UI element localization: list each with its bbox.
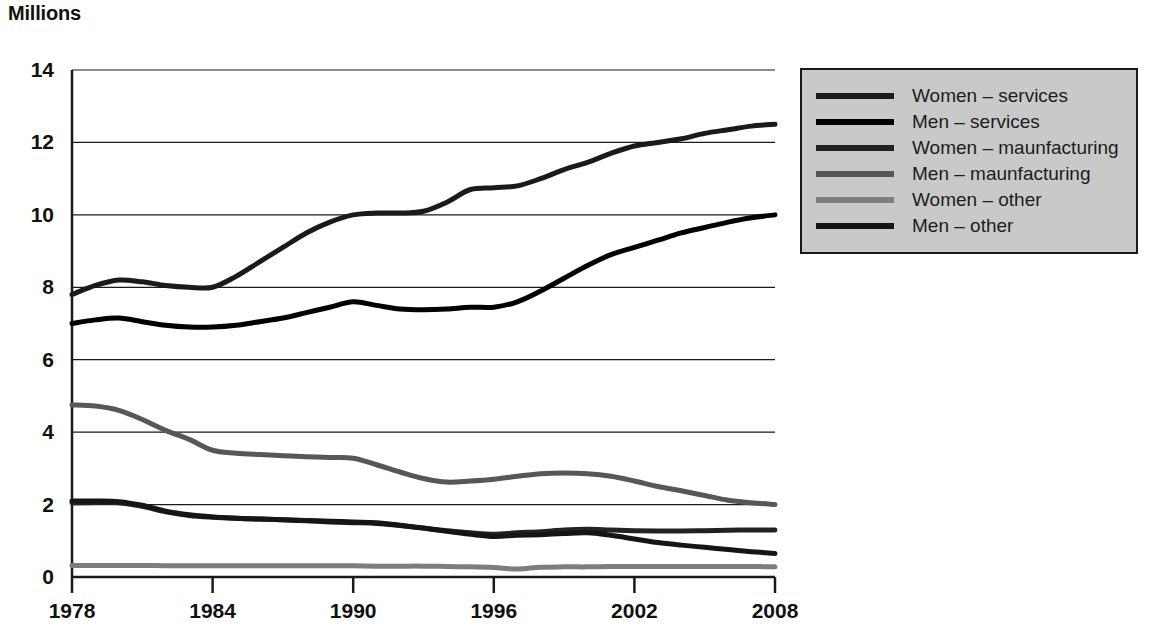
legend-swatch [816, 171, 894, 177]
y-axis-tick-label: 8 [8, 275, 54, 299]
legend-item-label: Women – other [912, 189, 1042, 211]
legend-swatch [816, 119, 894, 125]
gridlines [72, 70, 775, 577]
x-axis-tick-label: 1978 [27, 599, 117, 623]
y-axis-tick-label: 12 [8, 130, 54, 154]
legend-item-label: Men – maunfacturing [912, 163, 1091, 185]
legend-item-label: Men – other [912, 215, 1013, 237]
line-chart: 02468101214 197819841990199620022008 [0, 0, 800, 628]
y-axis-tick-label: 10 [8, 203, 54, 227]
series-lines [72, 124, 775, 569]
plot-svg [0, 0, 800, 628]
x-axis-tick-label: 1990 [308, 599, 398, 623]
x-axis-tick-label: 2008 [730, 599, 820, 623]
legend-item-label: Women – services [912, 85, 1068, 107]
legend-swatch [816, 197, 894, 203]
series-line [72, 501, 775, 554]
y-axis-tick-label: 6 [8, 348, 54, 372]
y-axis-tick-label: 0 [8, 565, 54, 589]
y-axis-tick-label: 4 [8, 420, 54, 444]
legend-swatch [816, 145, 894, 151]
legend-swatch [816, 223, 894, 229]
legend-item-label: Men – services [912, 111, 1040, 133]
legend-swatch [816, 93, 894, 99]
legend-item[interactable]: Men – services [802, 109, 1136, 135]
chart-legend: Women – servicesMen – servicesWomen – ma… [800, 68, 1138, 254]
x-axis-tick-label: 1996 [449, 599, 539, 623]
legend-item[interactable]: Women – other [802, 187, 1136, 213]
y-axis-tick-label: 2 [8, 493, 54, 517]
legend-item-label: Women – maunfacturing [912, 137, 1119, 159]
legend-item[interactable]: Women – services [802, 83, 1136, 109]
x-axis-tick-label: 1984 [168, 599, 258, 623]
legend-item[interactable]: Women – maunfacturing [802, 135, 1136, 161]
x-axis-ticks [72, 577, 775, 593]
series-line [72, 565, 775, 569]
series-line [72, 124, 775, 294]
x-axis-tick-label: 2002 [589, 599, 679, 623]
legend-item[interactable]: Men – maunfacturing [802, 161, 1136, 187]
y-axis-tick-label: 14 [8, 58, 54, 82]
series-line [72, 405, 775, 505]
legend-item[interactable]: Men – other [802, 213, 1136, 239]
series-line [72, 215, 775, 327]
